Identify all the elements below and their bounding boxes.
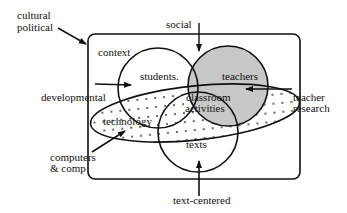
- developmental-label: developmental: [41, 91, 106, 103]
- research-label: research: [293, 102, 330, 114]
- cultural-label: cultural: [17, 9, 51, 21]
- political-label: political: [17, 21, 53, 33]
- students-label: students.: [140, 70, 179, 82]
- teachers-label: teachers: [222, 70, 258, 82]
- venn-diagram: context students. teachers classroom act…: [0, 0, 347, 213]
- context-label: context: [98, 46, 130, 58]
- cultural-arrow: [58, 28, 86, 44]
- texts-label: texts: [186, 138, 207, 150]
- text-centered-label: text-centered: [173, 194, 231, 206]
- social-label: social: [166, 18, 192, 30]
- activities-label: activities: [185, 102, 225, 114]
- technology-label: technology: [103, 115, 152, 127]
- developmental-arrow: [95, 84, 131, 85]
- comp-label: & comp: [50, 162, 86, 174]
